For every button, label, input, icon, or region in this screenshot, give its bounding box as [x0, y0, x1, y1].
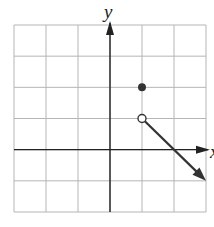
- function-graph: [138, 83, 206, 180]
- open-point: [138, 115, 146, 123]
- x-axis-label: x: [209, 141, 214, 162]
- filled-point: [138, 83, 146, 91]
- y-axis-arrow-icon: [106, 21, 114, 35]
- y-axis-label: y: [102, 1, 113, 22]
- x-axis-arrow-icon: [196, 146, 210, 154]
- axes: [14, 21, 210, 212]
- coordinate-plane: y x: [0, 0, 214, 227]
